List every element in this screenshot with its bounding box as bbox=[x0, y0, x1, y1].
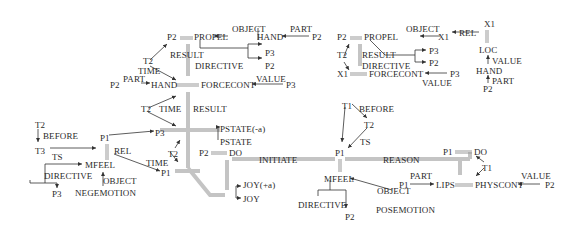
node-label-c-object: OBJECT bbox=[103, 176, 137, 186]
node-label-d-p3: P3 bbox=[429, 46, 439, 56]
node-label-f-physcont: PHYSCONT bbox=[475, 180, 523, 190]
node-label-b-pstate: PSTATE bbox=[220, 137, 252, 147]
node-label-a-directive: DIRECTIVE bbox=[195, 61, 243, 71]
node-label-d-t2: T2 bbox=[337, 50, 347, 60]
diagram-links bbox=[0, 0, 580, 233]
node-label-e-mfeel: MFEEL bbox=[324, 174, 354, 184]
node-label-d-value: VALUE bbox=[422, 78, 452, 88]
node-label-e-reason: REASON bbox=[383, 155, 420, 165]
node-label-b-time: TIME bbox=[159, 104, 181, 114]
node-label-c-p3: P3 bbox=[52, 189, 62, 199]
node-label-d-hand: HAND bbox=[476, 66, 502, 76]
node-label-a-p2: P2 bbox=[167, 32, 177, 42]
node-label-a-hand2: HAND bbox=[151, 80, 177, 90]
node-label-d-p2c: P2 bbox=[483, 84, 493, 94]
node-label-c-t3: T3 bbox=[35, 146, 45, 156]
node-label-d-result: RESULT bbox=[362, 50, 396, 60]
node-label-a-result: RESULT bbox=[170, 50, 204, 60]
node-label-e-posemotion: POSEMOTION bbox=[376, 205, 435, 215]
node-label-d-x1: X1 bbox=[438, 32, 449, 42]
node-label-a-p3b: P3 bbox=[286, 80, 296, 90]
node-label-a-value: VALUE bbox=[256, 74, 286, 84]
node-label-d-object: OBJECT bbox=[406, 24, 440, 34]
node-label-b-p1: P1 bbox=[161, 168, 171, 178]
node-label-c-directive: DIRECTIVE bbox=[44, 171, 92, 181]
node-label-b-t2: T2 bbox=[141, 104, 151, 114]
node-label-a-p2c: P2 bbox=[265, 61, 275, 71]
node-label-a-hand: HAND bbox=[257, 32, 283, 42]
node-label-d-part: PART bbox=[492, 76, 514, 86]
node-label-e-before: BEFORE bbox=[359, 104, 394, 114]
node-label-b-joy: JOY bbox=[243, 194, 260, 204]
node-label-d-loc: LOC bbox=[479, 45, 497, 55]
node-label-b-t2b: T2 bbox=[168, 149, 178, 159]
node-label-c-ts: TS bbox=[52, 152, 63, 162]
node-label-e-directive: DIRECTIVE bbox=[298, 200, 346, 210]
node-label-a-part: PART bbox=[290, 24, 312, 34]
node-label-d-x1top: X1 bbox=[484, 19, 495, 29]
node-label-f-p2: P2 bbox=[545, 180, 555, 190]
node-label-e-part: PART bbox=[410, 171, 432, 181]
node-label-e-lips: LIPS bbox=[436, 180, 455, 190]
node-label-b-p3: P3 bbox=[155, 128, 165, 138]
node-label-b-result: RESULT bbox=[193, 104, 227, 114]
node-label-b-joy-pos: JOY(+a) bbox=[243, 180, 275, 190]
node-label-d-propel: PROPEL bbox=[364, 32, 398, 42]
node-label-f-t1: T1 bbox=[482, 163, 492, 173]
node-label-f-p1: P1 bbox=[443, 147, 453, 157]
node-label-d-value2: VALUE bbox=[492, 56, 522, 66]
node-label-d-rel: REL bbox=[459, 28, 476, 38]
node-label-b-p2: P2 bbox=[199, 148, 209, 158]
node-label-b-time2: TIME bbox=[146, 158, 168, 168]
node-label-d-forcecont: FORCECONT bbox=[369, 69, 423, 79]
node-label-e-ts: TS bbox=[360, 137, 371, 147]
node-label-e-p1: P1 bbox=[335, 148, 345, 158]
node-label-b-do: DO bbox=[229, 148, 242, 158]
node-label-a-p3: P3 bbox=[265, 48, 275, 58]
node-label-d-p2: P2 bbox=[337, 32, 347, 42]
node-label-a-part2: PART bbox=[123, 74, 145, 84]
node-label-c-t2: T2 bbox=[35, 120, 45, 130]
node-label-a-p2d: P2 bbox=[110, 80, 120, 90]
node-label-d-x1b: X1 bbox=[337, 69, 348, 79]
node-label-c-before: BEFORE bbox=[43, 131, 78, 141]
node-label-c-p1: P1 bbox=[100, 133, 110, 143]
node-label-c-negemotion: NEGEMOTION bbox=[75, 188, 136, 198]
node-label-b-pstate-neg: PSTATE(-a) bbox=[220, 124, 265, 134]
node-label-c-mfeel: MFEEL bbox=[85, 160, 115, 170]
node-label-a-t2: T2 bbox=[143, 56, 153, 66]
node-label-d-p2b: P2 bbox=[429, 58, 439, 68]
node-label-e-t1: T1 bbox=[342, 101, 352, 111]
node-label-a-p2b: P2 bbox=[312, 32, 322, 42]
node-label-f-do: DO bbox=[474, 147, 487, 157]
node-label-e-p1b: P1 bbox=[399, 180, 409, 190]
conceptual-dependency-diagram: P2PROPELOBJECTHANDPARTP2RESULTDIRECTIVEP… bbox=[0, 0, 580, 233]
node-label-c-rel: REL bbox=[114, 146, 131, 156]
node-label-a-propel: PROPEL bbox=[194, 32, 228, 42]
node-label-e-t2: T2 bbox=[364, 120, 374, 130]
node-label-e-p2: P2 bbox=[345, 212, 355, 222]
node-label-b-initiate: INITIATE bbox=[259, 155, 297, 165]
node-label-a-forcecont: FORCECONT bbox=[201, 80, 255, 90]
